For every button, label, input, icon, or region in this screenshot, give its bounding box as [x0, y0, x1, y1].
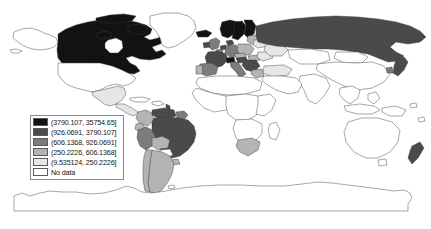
legend-label-no-data: No data — [51, 168, 75, 177]
islands-fiji — [418, 117, 425, 122]
country-south-korea — [386, 67, 393, 73]
legend-label-bin-2: (926.0691, 3790.107] — [51, 128, 116, 137]
legend-label-bin-3: (606.1368, 926.0691] — [51, 138, 116, 147]
legend-item[interactable]: (250.2226, 606.1368] — [33, 147, 121, 157]
legend-swatch-bin-1 — [33, 118, 48, 126]
legend-label-bin-1: (3790.107, 35754.65] — [51, 118, 116, 127]
islands-pacific — [410, 103, 417, 108]
islands-falkland — [168, 185, 175, 189]
legend-swatch-bin-4 — [33, 148, 48, 156]
country-portugal — [196, 65, 203, 74]
legend-swatch-bin-3 — [33, 138, 48, 146]
map-legend: (3790.107, 35754.65] (926.0691, 3790.107… — [30, 115, 124, 180]
country-tasmania — [378, 159, 387, 166]
legend-item[interactable]: (606.1368, 926.0691] — [33, 137, 121, 147]
legend-swatch-bin-5 — [33, 158, 48, 166]
legend-item[interactable]: (9.535124, 250.2226] — [33, 157, 121, 167]
country-ireland — [203, 42, 210, 48]
legend-swatch-no-data — [33, 168, 48, 176]
legend-item[interactable]: (3790.107, 35754.65] — [33, 117, 121, 127]
legend-swatch-bin-2 — [33, 128, 48, 136]
legend-label-bin-4: (250.2226, 606.1368] — [51, 148, 116, 157]
legend-label-bin-5: (9.535124, 250.2226] — [51, 158, 116, 167]
choropleth-world-map: (3790.107, 35754.65] (926.0691, 3790.107… — [0, 0, 431, 229]
legend-item-no-data[interactable]: No data — [33, 167, 121, 177]
legend-item[interactable]: (926.0691, 3790.107] — [33, 127, 121, 137]
hudson-bay — [105, 38, 123, 53]
